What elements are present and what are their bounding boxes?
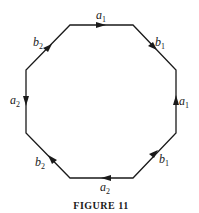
figure-caption: FIGURE 11 (73, 200, 128, 211)
label-top-left: b2 (33, 35, 43, 51)
octagon-diagram: a1 b1 a1 b1 a2 b2 a2 b2 FIGURE 11 (0, 0, 199, 213)
label-bottom-right: b1 (159, 152, 169, 168)
label-bottom: a2 (100, 180, 110, 196)
label-top: a1 (96, 8, 106, 24)
label-right: a1 (179, 94, 189, 110)
label-bottom-left: b2 (35, 155, 45, 171)
label-left: a2 (10, 93, 20, 109)
arrow-down-icon (23, 96, 29, 106)
label-top-right: b1 (155, 35, 165, 51)
